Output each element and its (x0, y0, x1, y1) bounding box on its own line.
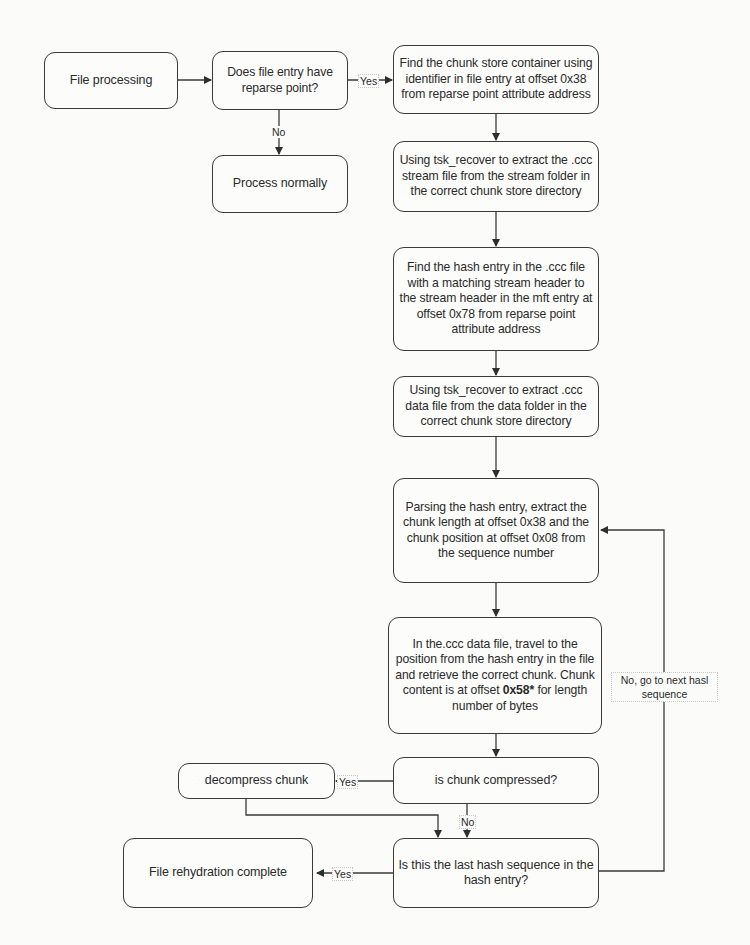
node-text: Using tsk_recover to extract .ccc data f… (398, 383, 594, 430)
node-find-chunk-store: Find the chunk store container using ide… (393, 45, 599, 114)
node-has-reparse-point: Does file entry have reparse point? (212, 51, 348, 110)
node-is-last-hash-sequence: Is this the last hash sequence in the ha… (393, 838, 599, 908)
edge-label-last-yes: Yes (332, 867, 353, 881)
node-is-chunk-compressed: is chunk compressed? (393, 757, 599, 804)
node-parse-hash-entry: Parsing the hash entry, extract the chun… (393, 478, 599, 583)
node-text: decompress chunk (205, 773, 308, 789)
node-text: is chunk compressed? (435, 773, 557, 789)
edge-label-compressed-yes: Yes (337, 775, 358, 789)
edge-label-compressed-no: No (459, 815, 476, 829)
node-text: Does file entry have reparse point? (217, 65, 343, 96)
node-file-processing: File processing (44, 52, 178, 109)
node-text: In the.ccc data file, travel to the posi… (393, 637, 597, 715)
edge-label-reparse-no: No (271, 126, 286, 138)
node-process-normally: Process normally (212, 155, 348, 213)
node-extract-stream-file: Using tsk_recover to extract the .ccc st… (393, 141, 599, 212)
node-retrieve-chunk: In the.ccc data file, travel to the posi… (388, 617, 602, 734)
node-text: Find the chunk store container using ide… (398, 56, 594, 103)
node-decompress-chunk: decompress chunk (178, 763, 335, 799)
edge-label-last-no: No, go to next hasl sequence (611, 672, 718, 702)
node-text: File processing (70, 73, 153, 89)
edge-decompress-to-last (246, 799, 438, 837)
node-file-rehydration-complete: File rehydration complete (123, 838, 313, 908)
node-text: Is this the last hash sequence in the ha… (398, 858, 594, 889)
node-find-hash-entry: Find the hash entry in the .ccc file wit… (393, 247, 599, 351)
node-text: Parsing the hash entry, extract the chun… (398, 500, 594, 562)
node-text: Process normally (233, 176, 327, 192)
node-text: File rehydration complete (149, 865, 287, 881)
edge-label-reparse-yes: Yes (358, 74, 379, 88)
node-text: Find the hash entry in the .ccc file wit… (398, 260, 594, 338)
node-extract-data-file: Using tsk_recover to extract .ccc data f… (393, 376, 599, 437)
node-text: Using tsk_recover to extract the .ccc st… (398, 153, 594, 200)
node-text-offset: 0x58* (503, 683, 534, 697)
connector-layer (0, 0, 750, 945)
